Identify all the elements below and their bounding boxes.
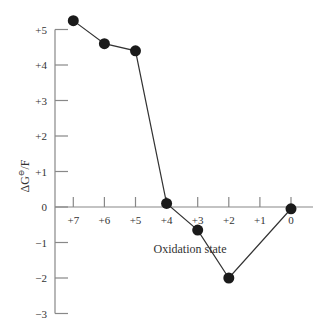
data-point <box>223 273 234 284</box>
ticks <box>55 30 291 314</box>
y-tick-label: +2 <box>35 130 47 142</box>
x-tick-label: +2 <box>223 214 235 226</box>
y-tick-label: +1 <box>35 166 47 178</box>
x-tick-label: +6 <box>99 214 111 226</box>
x-tick-label: +7 <box>67 214 79 226</box>
y-tick-label: −2 <box>35 272 47 284</box>
x-axis-label: Oxidation state <box>154 242 227 256</box>
y-tick-label: −1 <box>35 237 47 249</box>
tick-labels: +5+4+3+2+10−1−2−3+7+6+5+4+3+2+10 <box>35 24 294 320</box>
x-tick-label: +1 <box>254 214 266 226</box>
data-point <box>192 225 203 236</box>
data-point <box>161 198 172 209</box>
series-line <box>73 21 291 278</box>
y-tick-label: +3 <box>35 95 47 107</box>
x-tick-label: +4 <box>161 214 173 226</box>
x-tick-label: 0 <box>288 214 294 226</box>
data-point <box>99 38 110 49</box>
y-tick-label: 0 <box>42 201 48 213</box>
y-tick-label: −3 <box>35 308 47 320</box>
x-tick-label: +3 <box>192 214 204 226</box>
data-point <box>68 15 79 26</box>
y-tick-label: +5 <box>35 24 47 36</box>
frost-diagram-chart: +5+4+3+2+10−1−2−3+7+6+5+4+3+2+10 Oxidati… <box>0 0 331 335</box>
axes <box>55 30 313 314</box>
y-axis-label: ΔG⊖/F <box>17 159 32 192</box>
x-tick-label: +5 <box>130 214 142 226</box>
y-tick-label: +4 <box>35 59 47 71</box>
data-point <box>286 203 297 214</box>
data-point <box>130 45 141 56</box>
